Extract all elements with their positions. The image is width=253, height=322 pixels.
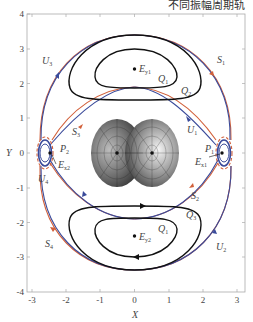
- y-axis-label: Y: [6, 147, 13, 158]
- svg-text:Q1: Q1: [158, 73, 168, 85]
- svg-text:U2: U2: [216, 241, 226, 253]
- svg-text:S2: S2: [191, 190, 199, 202]
- svg-text:U4: U4: [38, 173, 48, 185]
- svg-text:-2: -2: [17, 218, 25, 228]
- svg-text:S4: S4: [45, 238, 53, 250]
- chart-plot: -3 -2 -1 0 1 2 3 4 3 2 1 0 -1 -2 -3 -4 X…: [0, 0, 253, 322]
- svg-text:-4: -4: [17, 287, 25, 297]
- svg-text:-3: -3: [28, 295, 36, 305]
- svg-text:Ex1: Ex1: [194, 156, 207, 168]
- svg-text:2: 2: [20, 79, 25, 89]
- svg-text:2: 2: [201, 295, 206, 305]
- svg-text:4: 4: [20, 9, 25, 19]
- svg-text:1: 1: [167, 295, 172, 305]
- svg-text:U3: U3: [42, 55, 52, 67]
- periodic-orbit-P1: [216, 137, 232, 169]
- svg-text:S1: S1: [217, 54, 225, 66]
- svg-text:P1: P1: [204, 143, 214, 155]
- svg-text:S3: S3: [72, 126, 80, 138]
- y-tick-labels: 4 3 2 1 0 -1 -2 -3 -4: [17, 9, 25, 297]
- svg-text:-1: -1: [17, 183, 25, 193]
- svg-text:P2: P2: [59, 143, 69, 155]
- svg-text:1: 1: [20, 113, 25, 123]
- svg-text:3: 3: [235, 295, 240, 305]
- svg-text:Q2: Q2: [181, 85, 191, 97]
- asteroid-body: [91, 119, 179, 187]
- svg-text:3: 3: [20, 44, 25, 54]
- svg-text:-2: -2: [62, 295, 70, 305]
- svg-text:-1: -1: [96, 295, 104, 305]
- x-axis-label: X: [131, 309, 139, 320]
- svg-text:-3: -3: [17, 252, 25, 262]
- svg-text:0: 0: [132, 295, 137, 305]
- svg-text:Ex2: Ex2: [57, 159, 70, 171]
- svg-text:Q3: Q3: [186, 209, 196, 221]
- x-tick-labels: -3 -2 -1 0 1 2 3: [28, 295, 240, 305]
- svg-text:Ey2: Ey2: [138, 231, 151, 243]
- svg-text:Ey1: Ey1: [138, 63, 151, 75]
- svg-text:U1: U1: [187, 124, 197, 136]
- svg-text:0: 0: [20, 148, 25, 158]
- svg-text:Q1: Q1: [158, 223, 168, 235]
